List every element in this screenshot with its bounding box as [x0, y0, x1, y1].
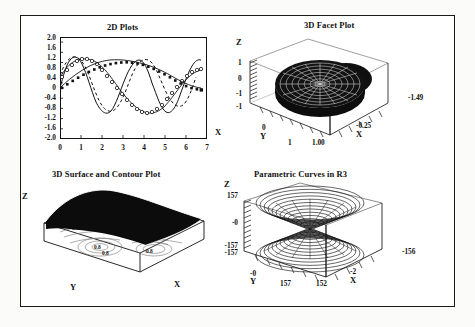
- x-tick: 4: [137, 143, 151, 152]
- axis-label-x-2d: X: [215, 127, 221, 137]
- chart-curves-2d: [60, 37, 207, 139]
- panel-3d-surface-contour: 3D Surface and Contour Plot Z Y X: [22, 167, 232, 307]
- z-tick: -157: [210, 248, 238, 257]
- panel-title-parametric: Parametric Curves in R3: [254, 169, 347, 179]
- chart-3d-facet: [238, 31, 413, 151]
- y-tick: 2.0: [30, 33, 56, 42]
- y-tick: 0.8: [30, 63, 56, 72]
- figure-page: 2D Plots Y X 2.0 1.6 1.2 0.8 0.4 0 -0.4 …: [0, 0, 475, 327]
- chart-surface-contour: 0.0 0.0 0.0 0.0 0.0 0.8 0.8 0.8: [36, 177, 216, 292]
- panel-title-2d-plots: 2D Plots: [107, 22, 138, 32]
- contour-label: 0.8: [102, 250, 109, 256]
- panel-3d-facet-plot: 3D Facet Plot Z 1 0 -1 -1 0 Y 1 1.00 -0.…: [232, 17, 454, 167]
- x-tick: 0: [53, 143, 67, 152]
- y-tick: -0.8: [30, 103, 56, 112]
- y-tick: 1.6: [30, 43, 56, 52]
- chart-parametric-curves: [238, 179, 413, 294]
- panel-parametric-curves: Parametric Curves in R3 Z 157 -0 -157 -1…: [232, 167, 454, 307]
- x-tick: 1: [74, 143, 88, 152]
- axis-label-z-parametric: Z: [224, 179, 230, 189]
- x-tick: 6: [179, 143, 193, 152]
- axis-label-z-surface: Z: [22, 191, 28, 201]
- y-tick: -2.0: [30, 133, 56, 142]
- x-tick: 5: [158, 143, 172, 152]
- y-tick: 1.2: [30, 53, 56, 62]
- y-tick: -0.4: [30, 93, 56, 102]
- panel-title-3d-facet: 3D Facet Plot: [304, 20, 354, 30]
- contour-label: 0.8: [146, 248, 153, 254]
- x-tick: 2: [95, 143, 109, 152]
- panel-2d-plots: 2D Plots Y X 2.0 1.6 1.2 0.8 0.4 0 -0.4 …: [22, 17, 232, 167]
- x-tick: 7: [200, 143, 214, 152]
- z-tick: -0: [210, 218, 238, 227]
- x-tick: 3: [116, 143, 130, 152]
- y-tick: -1.2: [30, 113, 56, 122]
- y-tick: 0: [30, 83, 56, 92]
- contour-label: 0.8: [94, 244, 101, 250]
- z-tick: 157: [210, 191, 238, 200]
- y-tick: 0.4: [30, 73, 56, 82]
- y-tick: -1.6: [30, 123, 56, 132]
